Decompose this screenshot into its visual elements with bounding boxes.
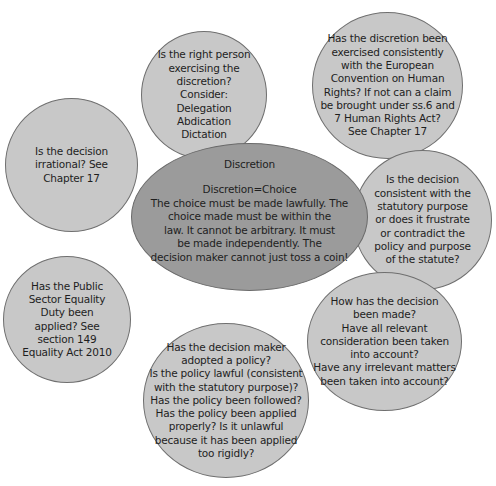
node-statutory-purpose: Is the decision consistent with the stat… — [353, 150, 492, 290]
node-psed-text: Has the Public Sector Equality Duty been… — [22, 280, 111, 360]
node-right-person: Is the right person exercising the discr… — [141, 31, 267, 159]
node-policy: Has the decision maker adopted a policy?… — [143, 323, 309, 478]
center-node-title: Discretion — [224, 158, 275, 171]
node-echr-text: Has the discretion been exercised consis… — [320, 32, 454, 138]
node-irrational: Is the decision irrational? See Chapter … — [5, 98, 138, 232]
node-echr: Has the discretion been exercised consis… — [312, 12, 463, 159]
node-statutory-purpose-text: Is the decision consistent with the stat… — [374, 173, 470, 266]
node-psed: Has the Public Sector Equality Duty been… — [3, 256, 131, 383]
node-right-person-text: Is the right person exercising the discr… — [158, 48, 251, 141]
center-node-discretion: Discretion Discretion=Choice The choice … — [131, 143, 368, 291]
node-irrational-text: Is the decision irrational? See Chapter … — [35, 145, 108, 185]
node-how-made-text: How has the decision been made? Have all… — [313, 295, 455, 388]
center-node-body: Discretion=Choice The choice must be mad… — [151, 183, 349, 265]
node-how-made: How has the decision been made? Have all… — [307, 272, 462, 411]
node-policy-text: Has the decision maker adopted a policy?… — [149, 341, 302, 461]
